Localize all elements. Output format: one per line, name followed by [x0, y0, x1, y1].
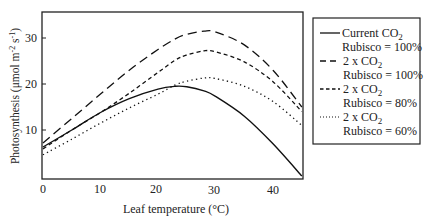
- x-axis: 0 10 20 30 40 Leaf temperature (°C): [40, 182, 279, 216]
- series-current-co2-rubisco-100: [43, 86, 302, 176]
- x-tick-label: 20: [150, 182, 162, 196]
- legend: Current CO2 Rubisco = 100% 2 x CO2 Rubis…: [313, 18, 423, 144]
- x-tick-label: 30: [208, 183, 220, 197]
- x-tick-label: 40: [267, 183, 279, 197]
- y-tick-label: 10: [25, 123, 37, 137]
- legend-item-1-line2: Rubisco = 100%: [342, 40, 422, 54]
- x-tick-label: 10: [94, 182, 106, 196]
- y-axis: 10 20 30: [25, 31, 46, 137]
- y-axis-label: Photosynthesis (μmol m-2 s-1): [8, 28, 22, 164]
- legend-item-4-line2: Rubisco = 60%: [343, 124, 417, 138]
- x-axis-label: Leaf temperature (°C): [123, 202, 229, 216]
- plot-frame: [42, 12, 303, 179]
- y-tick-label: 20: [25, 77, 37, 91]
- series-2x-co2-rubisco-60: [43, 78, 302, 155]
- legend-item-2-line2: Rubisco = 100%: [343, 68, 423, 82]
- y-tick-label: 30: [25, 31, 37, 45]
- line-chart: 10 20 30 Photosynthesis (μmol m-2 s-1) 0…: [0, 0, 432, 220]
- series-layer: [43, 31, 302, 176]
- legend-item-3-line2: Rubisco = 80%: [343, 96, 417, 110]
- x-tick-label: 0: [40, 182, 46, 196]
